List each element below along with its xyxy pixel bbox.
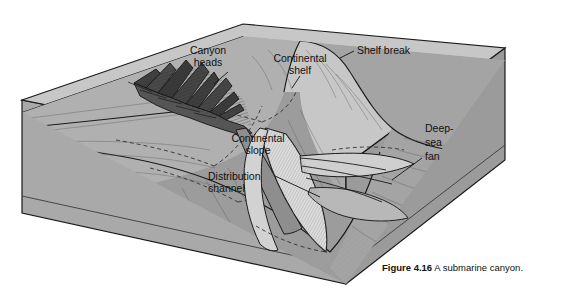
figure-caption: Figure 4.16 A submarine canyon. bbox=[382, 262, 523, 273]
label-deep-sea-fan-line1: Deep- bbox=[425, 122, 454, 134]
label-continental-shelf-line1: Continental bbox=[273, 52, 326, 64]
figure-container: Canyon heads Continental shelf Shelf bre… bbox=[0, 0, 568, 295]
label-continental-shelf-line2: shelf bbox=[289, 64, 311, 76]
label-continental-slope-line1: Continental bbox=[231, 132, 284, 144]
label-continental-slope-line2: slope bbox=[245, 144, 270, 156]
label-deep-sea-fan-line3: fan bbox=[425, 150, 440, 162]
submarine-canyon-block-diagram: Canyon heads Continental shelf Shelf bre… bbox=[0, 0, 568, 295]
label-canyon-heads-line1: Canyon bbox=[190, 44, 226, 56]
label-distribution-channel-line1: Distribution bbox=[208, 170, 261, 182]
figure-caption-text: A submarine canyon. bbox=[434, 262, 523, 273]
figure-caption-number: Figure 4.16 bbox=[382, 262, 432, 273]
label-distribution-channel-line2: channel bbox=[208, 182, 245, 194]
label-shelf-break: Shelf break bbox=[357, 44, 411, 56]
label-canyon-heads-line2: heads bbox=[194, 56, 223, 68]
label-deep-sea-fan-line2: sea bbox=[425, 136, 442, 148]
